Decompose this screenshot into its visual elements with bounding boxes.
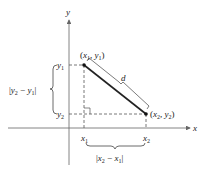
distance-segment (84, 65, 146, 114)
horizontal-diff-label: |x2 − x1| (96, 153, 123, 164)
point-2 (144, 112, 148, 116)
tick-x1: x1 (80, 133, 88, 144)
vertical-brace (50, 65, 57, 114)
tick-x2: x2 (142, 133, 150, 144)
right-angle-marker (84, 108, 90, 114)
tick-y2: y2 (56, 109, 64, 120)
y-axis-label: y (65, 7, 70, 17)
guide-lines (69, 65, 146, 128)
point-1-label: (x1, y1) (80, 50, 105, 61)
point-1 (82, 63, 86, 67)
distance-label: d (121, 73, 126, 83)
vertical-diff-label: |y2 − y1| (9, 85, 36, 96)
horizontal-brace (86, 143, 145, 149)
point-2-label: (x2, y2) (150, 109, 175, 120)
x-axis-label: x (192, 123, 197, 133)
distance-brace (87, 58, 149, 109)
tick-y1: y1 (56, 60, 64, 71)
distance-diagram: x y d (x1, y1) (x2, y2) y1 y2 x1 x2 |y2 … (0, 0, 203, 178)
